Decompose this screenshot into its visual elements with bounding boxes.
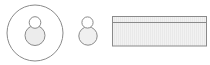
- person-in-circle-icon: [7, 5, 63, 61]
- rectangle-with-header-icon: [113, 17, 207, 47]
- person-icon: [79, 17, 97, 45]
- diagram-svg: [0, 0, 210, 65]
- diagram-canvas: [0, 0, 210, 65]
